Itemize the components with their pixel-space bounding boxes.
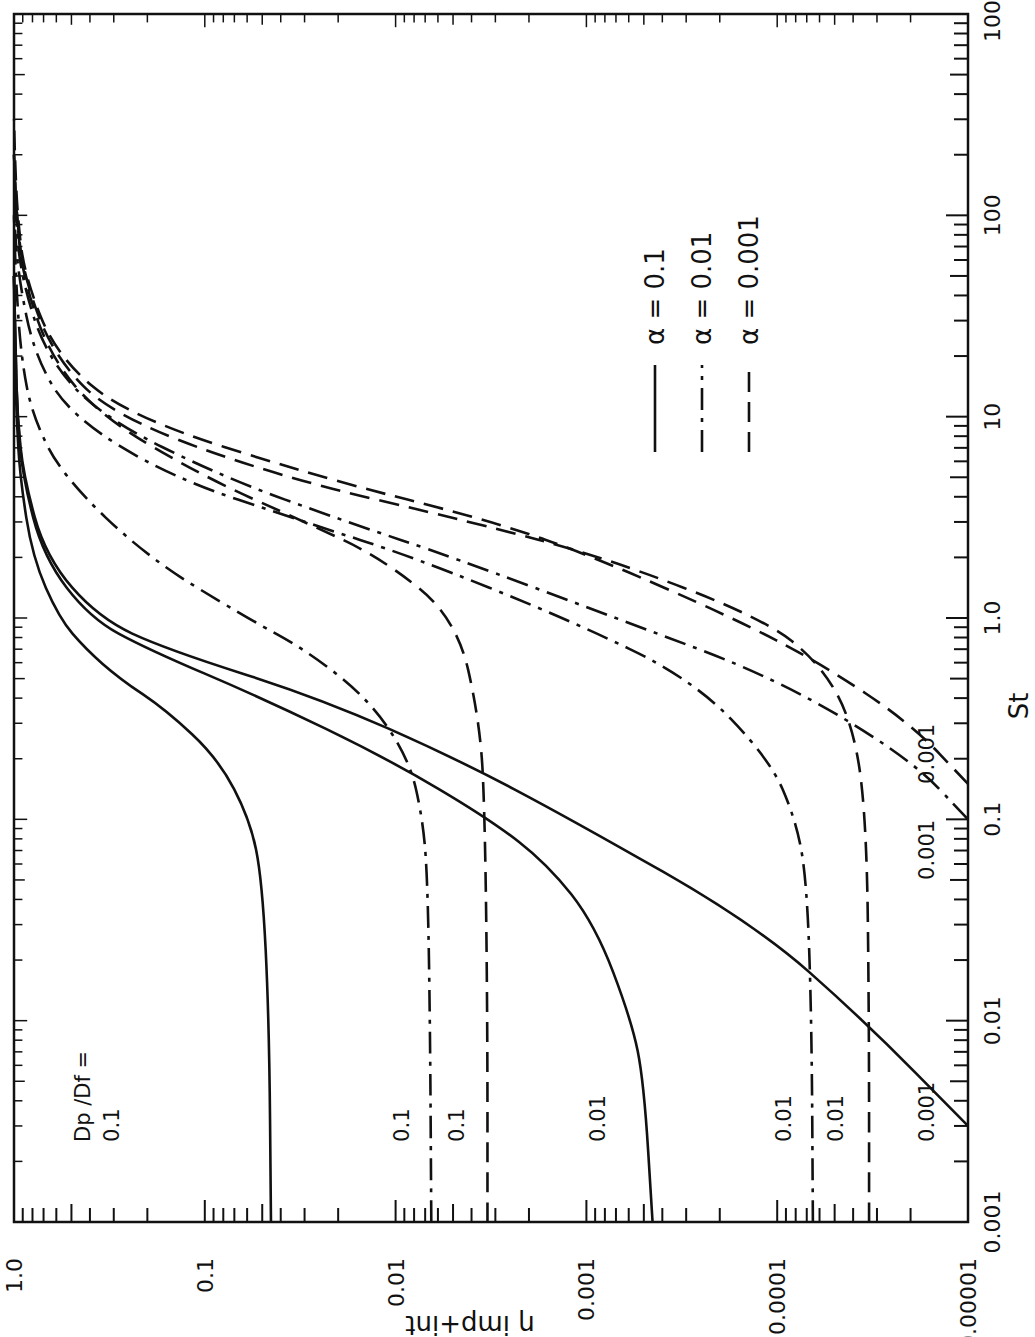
legend-label: α = 0.01 [687, 232, 717, 345]
plot-border [14, 14, 968, 1222]
eff-tick-label: 0.00001 [956, 1258, 981, 1337]
st-tick-label: 0.001 [980, 1191, 1005, 1254]
eff-tick-label: 1.0 [2, 1258, 27, 1293]
curve-value-label: 0.01 [586, 1095, 610, 1142]
curve-solid [14, 276, 271, 1222]
curve-value-label: 0.1 [100, 1108, 124, 1141]
curve-solid [14, 276, 968, 1126]
curve-value-label: 0.001 [915, 1082, 939, 1142]
plot-frame [14, 14, 968, 1222]
st-tick-label: 100 [980, 194, 1005, 236]
legend: α = 0.1α = 0.01α = 0.001 [640, 215, 764, 452]
efficiency-vs-stokes-chart: 0.0010.010.11.01010010000.000010.00010.0… [0, 0, 1035, 1337]
curve-group [14, 119, 968, 1222]
x-axis-title: St [1004, 693, 1034, 720]
curve-value-label: 0.001 [915, 724, 939, 784]
y-axis-title: η imp+int [405, 1310, 534, 1337]
curve-annotations: Dp /Df =0.10.10.10.010.010.010.0010.0010… [71, 724, 939, 1142]
eff-tick-label: 0.1 [193, 1258, 218, 1293]
curve-dash-dot [14, 155, 968, 820]
st-tick-label: 10 [980, 403, 1005, 431]
st-tick-label: 1.0 [980, 601, 1005, 636]
curve-value-label: 0.1 [445, 1108, 469, 1141]
axis-ticks: 0.0010.010.11.01010010000.000010.00010.0… [2, 0, 1005, 1337]
st-tick-label: 0.01 [980, 996, 1005, 1045]
legend-label: α = 0.001 [734, 215, 764, 345]
curve-dashed [14, 119, 968, 784]
eff-tick-label: 0.01 [384, 1258, 409, 1307]
axis-titles: Stη imp+int [405, 693, 1034, 1337]
eff-tick-label: 0.0001 [765, 1258, 790, 1335]
st-tick-label: 0.1 [980, 802, 1005, 837]
curve-value-label: 0.001 [915, 820, 939, 880]
st-tick-label: 1000 [980, 0, 1005, 42]
curve-value-label: 0.01 [772, 1095, 796, 1142]
curve-value-label: 0.01 [824, 1095, 848, 1142]
curve-value-label: Dp /Df = [71, 1051, 95, 1142]
eff-tick-label: 0.001 [574, 1258, 599, 1321]
legend-label: α = 0.1 [640, 248, 670, 345]
curve-dash-dot [14, 215, 813, 1222]
curve-value-label: 0.1 [390, 1108, 414, 1141]
